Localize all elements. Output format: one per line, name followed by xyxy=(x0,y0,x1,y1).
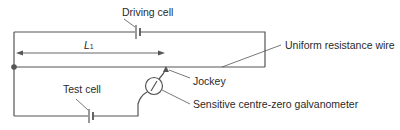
top-wire xyxy=(14,32,265,67)
driving-cell-leader xyxy=(124,19,135,27)
circuit-diagram xyxy=(0,0,400,130)
bottom-wire xyxy=(14,92,147,116)
length-arrow-right-head xyxy=(158,51,165,56)
test-cell-leader xyxy=(76,99,88,110)
galvanometer-label: Sensitive centre-zero galvanometer xyxy=(193,98,358,110)
jockey-label: Jockey xyxy=(193,75,226,87)
length-subscript: 1 xyxy=(90,43,94,50)
jockey-leader xyxy=(169,70,190,78)
resistance-wire-label: Uniform resistance wire xyxy=(285,39,395,51)
length-label: L1 xyxy=(84,39,94,53)
test-cell-label: Test cell xyxy=(63,83,101,95)
length-arrow-left-head xyxy=(16,51,23,56)
galvanometer-leader xyxy=(162,90,190,104)
resistance-wire-leader xyxy=(222,45,281,67)
galvanometer-needle xyxy=(151,81,157,91)
driving-cell-label: Driving cell xyxy=(122,6,173,18)
junction-dot xyxy=(11,64,17,70)
